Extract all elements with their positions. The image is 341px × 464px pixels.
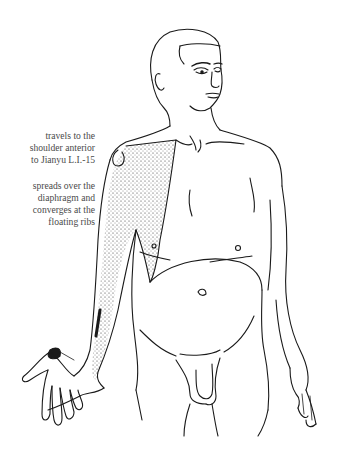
meridian-region — [92, 140, 176, 380]
pelvis — [136, 350, 268, 436]
right-hand — [22, 348, 104, 425]
left-hand — [290, 368, 316, 427]
anatomy-figure — [0, 0, 341, 464]
nipple-right — [236, 246, 241, 251]
